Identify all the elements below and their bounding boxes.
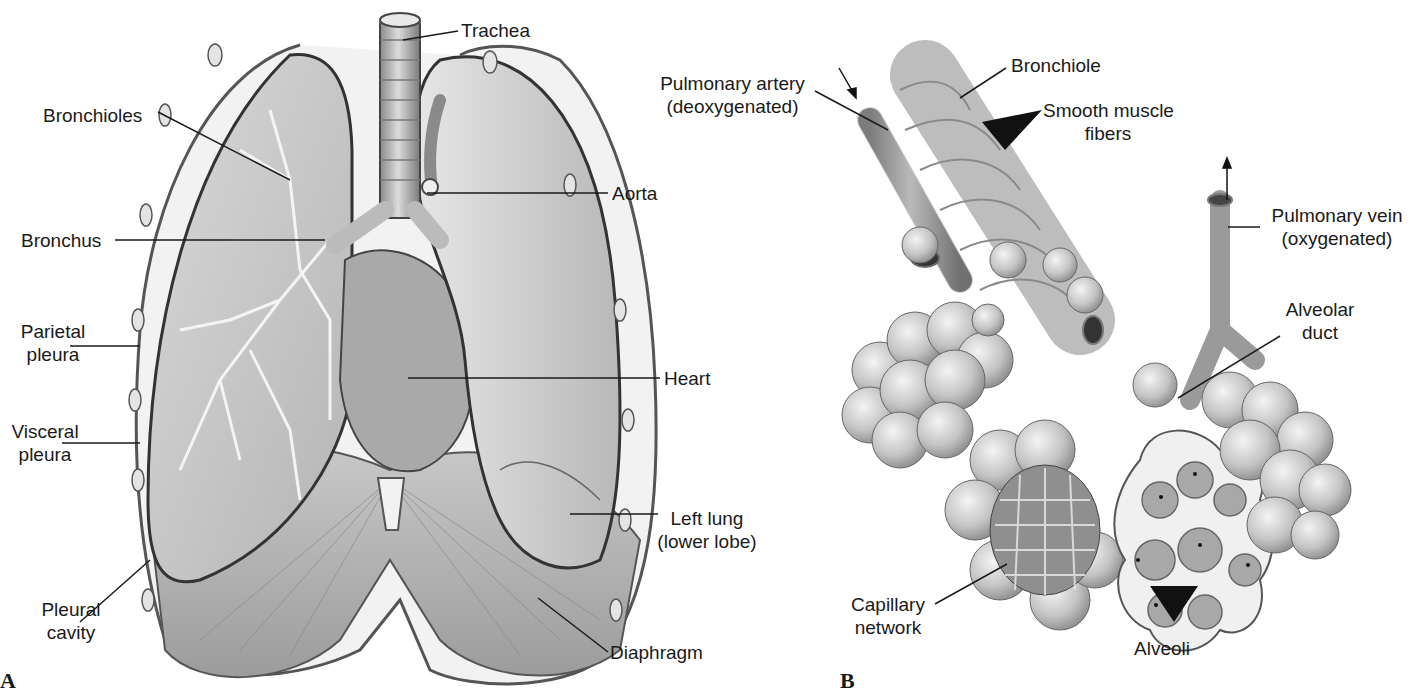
- label-bronchus: Bronchus: [21, 229, 101, 252]
- label-line: pleura: [10, 443, 80, 466]
- label-smooth-muscle: Smooth muscle fibers: [1043, 99, 1173, 145]
- label-pleural-cavity: Pleural cavity: [36, 598, 106, 644]
- label-capillary-network: Capillary network: [843, 593, 933, 639]
- label-aorta: Aorta: [612, 182, 657, 205]
- panel-a-lungs: [62, 13, 660, 684]
- label-left-lung: Left lung (lower lobe): [652, 507, 762, 553]
- label-parietal-pleura: Parietal pleura: [18, 320, 88, 366]
- label-line: Pleural: [36, 598, 106, 621]
- label-visceral-pleura: Visceral pleura: [10, 420, 80, 466]
- panel-letter-a: A: [0, 668, 16, 693]
- label-trachea: Trachea: [461, 19, 530, 42]
- label-line: Visceral: [10, 420, 80, 443]
- label-heart: Heart: [664, 367, 710, 390]
- label-alveolar-duct: Alveolar duct: [1280, 298, 1360, 344]
- trachea: [380, 18, 420, 218]
- label-line: Parietal: [18, 320, 88, 343]
- panel-b-alveoli: [815, 68, 1351, 651]
- label-line: (lower lobe): [652, 530, 762, 553]
- label-line: cavity: [36, 621, 106, 644]
- label-line: network: [843, 616, 933, 639]
- label-line: Pulmonary vein: [1262, 204, 1412, 227]
- label-line: pleura: [18, 343, 88, 366]
- label-alveoli: Alveoli: [1134, 637, 1190, 660]
- label-line: Pulmonary artery: [650, 72, 815, 95]
- label-diaphragm: Diaphragm: [610, 641, 703, 664]
- label-line: Left lung: [652, 507, 762, 530]
- label-pulmonary-artery: Pulmonary artery (deoxygenated): [650, 72, 815, 118]
- label-line: Alveolar: [1280, 298, 1360, 321]
- label-line: (oxygenated): [1262, 227, 1412, 250]
- label-pulmonary-vein: Pulmonary vein (oxygenated): [1262, 204, 1412, 250]
- alveolar-sac-capillary: [945, 420, 1123, 630]
- label-line: (deoxygenated): [650, 95, 815, 118]
- label-bronchioles: Bronchioles: [43, 104, 142, 127]
- label-line: fibers: [1043, 122, 1173, 145]
- label-line: duct: [1280, 321, 1360, 344]
- label-bronchiole: Bronchiole: [1011, 54, 1101, 77]
- label-line: Smooth muscle: [1043, 99, 1173, 122]
- pulmonary-vein: [1190, 200, 1255, 400]
- panel-letter-b: B: [840, 668, 855, 693]
- label-line: Capillary: [843, 593, 933, 616]
